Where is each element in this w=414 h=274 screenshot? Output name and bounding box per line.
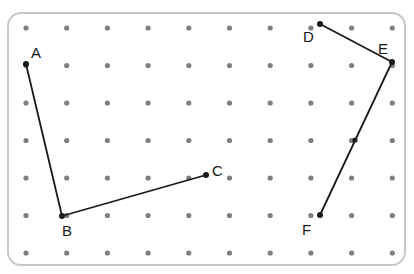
- grid-dot: [105, 250, 110, 255]
- grid-dot: [64, 250, 69, 255]
- grid-dot: [146, 138, 151, 143]
- vertex-label-a: A: [31, 44, 41, 61]
- grid-dot: [349, 175, 354, 180]
- grid-dot: [23, 100, 28, 105]
- vertex-dot-a: [23, 61, 29, 67]
- grid-dot: [227, 213, 232, 218]
- vertex-label-c: C: [212, 162, 223, 179]
- vertex-label-e: E: [378, 40, 388, 57]
- grid-dot: [146, 175, 151, 180]
- grid-dot: [146, 100, 151, 105]
- grid-dot: [64, 63, 69, 68]
- vertex-dot-f: [317, 212, 323, 218]
- grid-dot: [105, 175, 110, 180]
- grid-dot: [308, 138, 313, 143]
- grid-dot: [186, 100, 191, 105]
- grid-dot: [268, 25, 273, 30]
- grid-dot: [268, 175, 273, 180]
- grid-dot: [186, 25, 191, 30]
- grid-dot: [64, 138, 69, 143]
- grid-dot: [268, 63, 273, 68]
- grid-dot: [64, 25, 69, 30]
- grid-dot: [186, 213, 191, 218]
- grid-dot: [390, 250, 395, 255]
- grid-dot: [23, 138, 28, 143]
- grid-dot: [186, 250, 191, 255]
- grid-dot: [23, 175, 28, 180]
- grid-dot: [308, 213, 313, 218]
- grid-dot: [349, 63, 354, 68]
- grid-dot: [308, 63, 313, 68]
- grid-dot: [390, 138, 395, 143]
- grid-dot: [23, 250, 28, 255]
- grid-dot: [186, 63, 191, 68]
- vertex-dot-b: [59, 213, 65, 219]
- grid-dot: [186, 138, 191, 143]
- grid-dot: [146, 213, 151, 218]
- grid-dot: [105, 63, 110, 68]
- grid-dot: [227, 138, 232, 143]
- grid-dot: [105, 213, 110, 218]
- grid-dot: [390, 213, 395, 218]
- grid-dot: [268, 100, 273, 105]
- vertex-label-b: B: [62, 222, 72, 239]
- grid-dot: [349, 25, 354, 30]
- grid-dot: [146, 250, 151, 255]
- grid-dot: [23, 213, 28, 218]
- grid-dot: [227, 63, 232, 68]
- grid-dot: [349, 250, 354, 255]
- grid-dot: [227, 175, 232, 180]
- figure-root: ABCDEF: [0, 0, 414, 274]
- grid-dot: [390, 25, 395, 30]
- grid-dot: [268, 138, 273, 143]
- grid-dot: [227, 100, 232, 105]
- vertex-label-f: F: [302, 221, 311, 238]
- grid-dot: [23, 25, 28, 30]
- grid-dot: [105, 138, 110, 143]
- grid-dot: [349, 213, 354, 218]
- grid-dot: [308, 100, 313, 105]
- grid-dot: [146, 25, 151, 30]
- midpoint-mark-ef: [352, 137, 357, 142]
- grid-dot: [268, 250, 273, 255]
- grid-dot: [390, 100, 395, 105]
- vertex-dot-d: [317, 21, 323, 27]
- grid-dot: [308, 250, 313, 255]
- grid-dot: [268, 213, 273, 218]
- geoboard-figure: ABCDEF: [0, 0, 414, 274]
- vertex-dot-e: [389, 59, 395, 65]
- vertex-label-d: D: [303, 28, 314, 45]
- midpoint-mark-layer: [352, 137, 357, 142]
- grid-dot: [64, 100, 69, 105]
- grid-dot: [64, 175, 69, 180]
- grid-dot: [227, 25, 232, 30]
- grid-dot: [105, 25, 110, 30]
- vertex-dot-c: [203, 172, 209, 178]
- grid-dot: [390, 175, 395, 180]
- grid-dot: [308, 175, 313, 180]
- grid-dot: [349, 100, 354, 105]
- grid-dot: [146, 63, 151, 68]
- grid-dot: [105, 100, 110, 105]
- grid-dot: [227, 250, 232, 255]
